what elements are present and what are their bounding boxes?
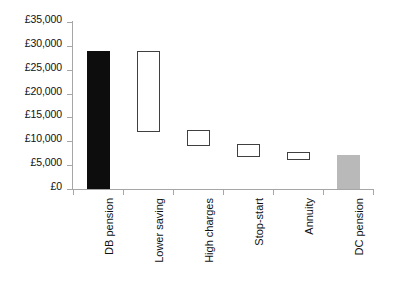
y-axis-tick-mark	[67, 70, 72, 71]
bar-db-pension	[87, 51, 110, 189]
category-label-stop-start: Stop-start	[253, 198, 265, 246]
category-label-dc-pension: DC pension	[353, 198, 365, 255]
x-axis-tick-mark	[173, 190, 174, 195]
category-label-text: High charges	[203, 198, 215, 263]
y-axis-tick-mark	[67, 94, 72, 95]
y-axis-tick-mark	[67, 22, 72, 23]
y-axis-tick-label: £30,000	[25, 38, 62, 49]
plot-area	[73, 22, 373, 189]
category-label-db-pension: DB pension	[103, 198, 115, 255]
pension-outcomes-bar-chart: £35,000£30,000£25,000£20,000£15,000£10,0…	[0, 0, 393, 291]
category-label-high-charges: High charges	[203, 198, 215, 263]
category-label-text: DB pension	[103, 198, 115, 255]
category-label-text: Lower saving	[153, 198, 165, 263]
category-label-lower-saving: Lower saving	[153, 198, 165, 263]
x-axis-tick-mark	[223, 190, 224, 195]
category-label-annuity: Annuity	[303, 198, 315, 235]
y-axis-tick-label: £20,000	[25, 86, 62, 97]
bar-high-charges	[187, 130, 210, 146]
bar-lower-saving	[137, 51, 160, 132]
x-axis-tick-mark	[273, 190, 274, 195]
y-axis-tick-mark	[67, 165, 72, 166]
y-axis-tick-mark	[67, 141, 72, 142]
y-axis-tick-label: £25,000	[25, 62, 62, 73]
bar-dc-pension	[337, 155, 360, 189]
y-axis-tick-label: £15,000	[25, 109, 62, 120]
y-axis-tick-mark	[67, 46, 72, 47]
x-axis-tick-mark	[373, 190, 374, 195]
y-axis-tick-label: £35,000	[25, 14, 62, 25]
y-axis-tick-label: £10,000	[25, 133, 62, 144]
y-axis-tick-mark	[67, 189, 72, 190]
category-label-text: Stop-start	[253, 198, 265, 246]
bar-annuity	[287, 152, 310, 160]
x-axis-tick-mark	[123, 190, 124, 195]
category-label-text: Annuity	[303, 198, 315, 235]
bar-stop-start	[237, 144, 260, 157]
y-axis-tick-label: £0	[51, 181, 62, 192]
y-axis-tick-mark	[67, 117, 72, 118]
category-label-text: DC pension	[353, 198, 365, 255]
x-axis-tick-mark	[73, 190, 74, 195]
y-axis-tick-label: £5,000	[30, 157, 62, 168]
x-axis-tick-mark	[323, 190, 324, 195]
